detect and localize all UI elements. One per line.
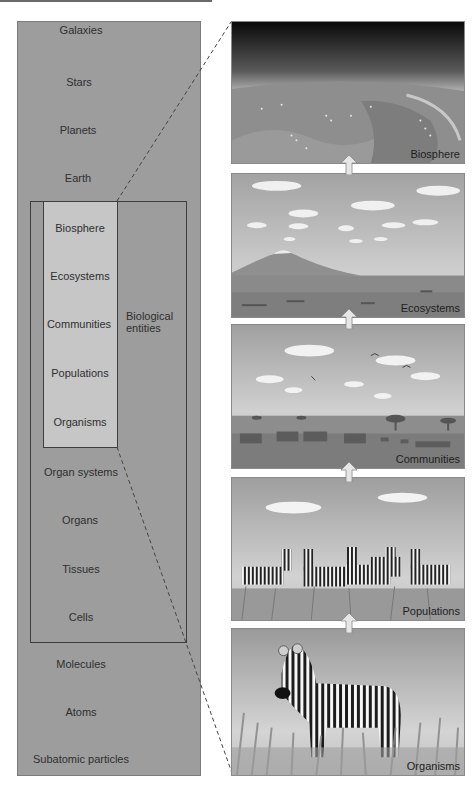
panel-populations: Populations: [231, 477, 465, 621]
zebra-herd-image: [232, 478, 464, 620]
single-zebra-image: [232, 629, 464, 775]
arrow-up-icon: [341, 613, 357, 633]
panel-ecosystems: Ecosystems: [231, 173, 465, 318]
panel-populations-label: Populations: [403, 605, 461, 617]
earth-from-space-image: [232, 22, 464, 163]
savanna-landscape-image: [232, 174, 464, 317]
panel-organisms-label: Organisms: [407, 760, 460, 772]
arrow-up-icon: [341, 462, 357, 482]
arrow-up-icon: [341, 309, 357, 329]
panel-biosphere-label: Biosphere: [410, 148, 460, 160]
savanna-community-image: [232, 325, 464, 468]
panel-biosphere: Biosphere: [231, 21, 465, 164]
panel-communities: Communities: [231, 324, 465, 469]
arrow-up-icon: [341, 155, 357, 175]
panel-communities-label: Communities: [396, 453, 460, 465]
panel-organisms: Organisms: [231, 628, 465, 776]
panel-ecosystems-label: Ecosystems: [401, 302, 460, 314]
